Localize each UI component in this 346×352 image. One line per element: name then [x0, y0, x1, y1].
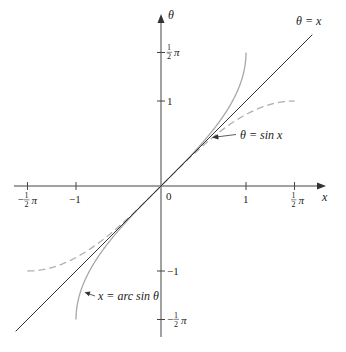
svg-text:2: 2	[174, 320, 178, 329]
y-axis-arrow-icon	[158, 14, 165, 23]
svg-text:2: 2	[24, 200, 28, 209]
arcsin-arrow-head-icon	[85, 292, 91, 297]
svg-text:1: 1	[292, 191, 296, 200]
identity-line-label: θ = x	[296, 14, 322, 28]
svg-text:2: 2	[292, 200, 296, 209]
x-axis-label: x	[321, 190, 328, 204]
sin-curve-label: θ = sin x	[240, 128, 283, 142]
svg-text:1: 1	[167, 43, 171, 52]
x-axis-arrow-icon	[317, 183, 326, 190]
x-tick-label: 1	[243, 193, 249, 205]
svg-text:1: 1	[174, 311, 178, 320]
identity-line	[16, 35, 313, 332]
x-tick-label: −12π	[17, 191, 37, 209]
y-axis-label: θ	[168, 8, 174, 22]
x-tick-label: 12π	[291, 191, 305, 209]
svg-text:π: π	[181, 314, 187, 326]
y-tick-label: 12π	[167, 43, 181, 61]
svg-text:−: −	[17, 193, 23, 205]
sin-label-arrow	[216, 135, 236, 138]
origin-label: 0	[166, 190, 172, 202]
svg-text:π: π	[174, 46, 180, 58]
x-tick-label: −1	[69, 193, 81, 205]
function-plot: −12π−1112π 12π1−1−12π θ x 0 θ = x θ = si…	[0, 0, 346, 352]
y-tick-label: −1	[167, 265, 179, 277]
svg-text:π: π	[299, 194, 305, 206]
arcsin-curve-label: x = arc sin θ	[97, 289, 159, 303]
svg-text:π: π	[31, 194, 37, 206]
svg-text:−: −	[167, 313, 173, 325]
svg-text:2: 2	[167, 52, 171, 61]
y-tick-label: −12π	[167, 311, 187, 329]
svg-text:1: 1	[24, 191, 28, 200]
y-tick-label: 1	[167, 95, 173, 107]
